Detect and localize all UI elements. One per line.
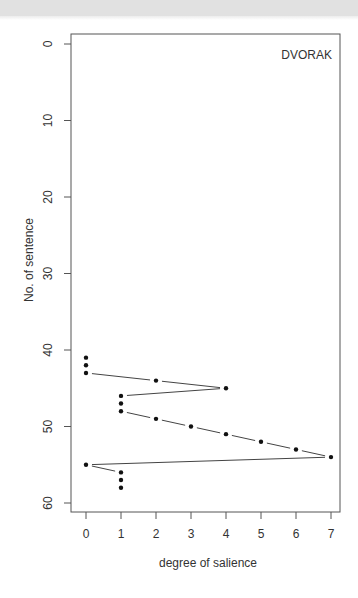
y-tick-label: 50: [41, 420, 55, 434]
series-segment: [267, 443, 290, 448]
series-segment: [232, 435, 255, 440]
data-point: [224, 432, 228, 436]
data-point: [259, 440, 263, 444]
y-tick-label: 20: [41, 190, 55, 204]
data-point: [84, 463, 88, 467]
data-point: [119, 478, 123, 482]
series-segment: [127, 412, 150, 417]
y-tick-label: 30: [41, 267, 55, 281]
data-point: [154, 417, 158, 421]
data-series: [84, 355, 333, 489]
data-point: [119, 409, 123, 413]
data-point: [154, 378, 158, 382]
plot-frame: [71, 34, 340, 512]
data-point: [224, 386, 228, 390]
plot-border: [71, 34, 340, 512]
y-tick-label: 40: [41, 343, 55, 357]
series-segment: [92, 457, 325, 464]
y-tick-label: 60: [41, 496, 55, 510]
x-tick-label: 3: [188, 527, 195, 541]
series-segment: [92, 374, 150, 380]
data-point: [119, 470, 123, 474]
series-segment: [162, 381, 220, 387]
x-tick-label: 7: [328, 527, 335, 541]
series-segment: [197, 428, 220, 433]
data-point: [84, 371, 88, 375]
data-point: [119, 394, 123, 398]
y-tick-label: 0: [41, 40, 55, 47]
series-segment: [127, 389, 220, 396]
series-segment: [302, 451, 325, 456]
x-tick-label: 2: [153, 527, 160, 541]
x-tick-label: 0: [83, 527, 90, 541]
series-segment: [162, 420, 185, 425]
y-axis-label: No. of sentence: [22, 218, 36, 302]
data-point: [329, 455, 333, 459]
chart-plot: 012345670102030405060 DVORAK degree of s…: [0, 0, 358, 598]
x-tick-label: 6: [293, 527, 300, 541]
y-tick-label: 10: [41, 114, 55, 128]
data-point: [119, 401, 123, 405]
data-point: [84, 355, 88, 359]
x-tick-label: 4: [223, 527, 230, 541]
series-segment: [92, 466, 115, 471]
data-point: [294, 447, 298, 451]
x-tick-label: 5: [258, 527, 265, 541]
data-point: [189, 424, 193, 428]
x-axis-label: degree of salience: [159, 556, 257, 570]
x-tick-label: 1: [118, 527, 125, 541]
chart-title: DVORAK: [281, 48, 332, 62]
data-point: [84, 363, 88, 367]
data-point: [119, 486, 123, 490]
